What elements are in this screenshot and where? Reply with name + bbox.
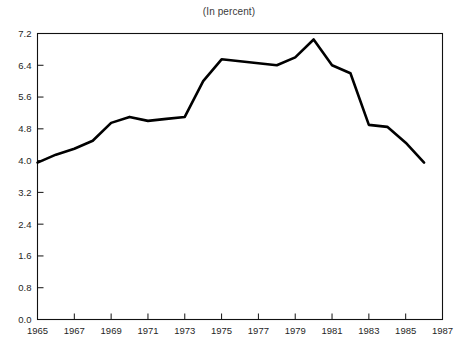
data-series-group [38, 39, 425, 162]
x-tick-label: 1977 [248, 325, 269, 336]
axis-frame [38, 34, 443, 320]
y-tick-label: 6.4 [18, 60, 31, 71]
data-line-series-1 [38, 39, 425, 162]
x-axis-labels: 1965196719691971197319751977197919811983… [27, 325, 453, 336]
x-tick-label: 1965 [27, 325, 48, 336]
x-tick-label: 1987 [432, 325, 453, 336]
y-tick-label: 0.8 [18, 282, 31, 293]
x-tick-label: 1969 [101, 325, 122, 336]
y-tick-label: 2.4 [18, 219, 31, 230]
x-tick-label: 1973 [174, 325, 195, 336]
line-chart-plot: 0.00.81.62.43.24.04.85.66.47.2 196519671… [0, 0, 458, 348]
y-axis-labels: 0.00.81.62.43.24.04.85.66.47.2 [18, 28, 31, 325]
y-tick-label: 3.2 [18, 187, 31, 198]
x-tick-label: 1981 [321, 325, 342, 336]
y-tick-label: 5.6 [18, 91, 31, 102]
y-tick-label: 4.0 [18, 155, 31, 166]
x-tick-label: 1967 [64, 325, 85, 336]
chart-figure: (In percent) 0.00.81.62.43.24.04.85.66.4… [0, 0, 458, 348]
y-tick-label: 4.8 [18, 123, 31, 134]
x-tick-label: 1979 [285, 325, 306, 336]
y-tick-label: 0.0 [18, 314, 31, 325]
y-tick-label: 1.6 [18, 250, 31, 261]
y-axis-ticks [38, 34, 44, 320]
y-tick-label: 7.2 [18, 28, 31, 39]
x-tick-label: 1985 [395, 325, 416, 336]
x-tick-label: 1975 [211, 325, 232, 336]
x-axis-ticks [38, 314, 443, 320]
x-tick-label: 1983 [358, 325, 379, 336]
x-tick-label: 1971 [137, 325, 158, 336]
